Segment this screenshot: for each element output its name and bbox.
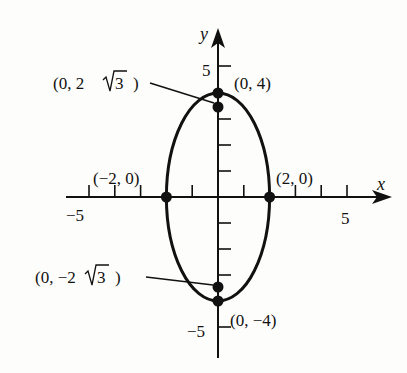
svg-text:(0, −2: (0, −2	[35, 268, 76, 287]
point-bottom-vertex	[213, 296, 224, 307]
ellipse-chart: x y −5 5 5 −5 (0, 4) (−2, 0) (2, 0) (0, …	[0, 0, 407, 373]
y-axis-label: y	[198, 24, 208, 44]
point-right-covertex	[264, 192, 275, 203]
label-bottom-vertex: (0, −4)	[230, 311, 276, 330]
point-bottom-focus	[213, 282, 224, 293]
svg-text:3: 3	[115, 74, 124, 93]
leader-line-bottom-focus	[146, 277, 213, 285]
svg-text:3: 3	[97, 268, 106, 287]
label-left-covertex: (−2, 0)	[93, 169, 139, 188]
x-axis-label: x	[376, 174, 385, 194]
label-right-covertex: (2, 0)	[276, 169, 313, 188]
point-top-focus	[213, 102, 224, 113]
svg-text:(0, 2: (0, 2	[53, 74, 84, 93]
label-top-focus: (0, 2 3 )	[53, 71, 139, 93]
x-tick-label-neg5: −5	[66, 206, 84, 225]
y-tick-label-neg5: −5	[187, 322, 205, 341]
y-axis	[211, 28, 231, 358]
label-bottom-focus: (0, −2 3 )	[35, 265, 121, 287]
svg-text:): )	[115, 268, 121, 287]
x-tick-label-5: 5	[341, 209, 350, 228]
svg-text:): )	[133, 74, 139, 93]
point-left-covertex	[161, 192, 172, 203]
point-top-vertex	[213, 88, 224, 99]
label-top-vertex: (0, 4)	[234, 74, 271, 93]
leader-line-top-focus	[150, 83, 214, 103]
y-tick-label-5: 5	[202, 61, 211, 80]
